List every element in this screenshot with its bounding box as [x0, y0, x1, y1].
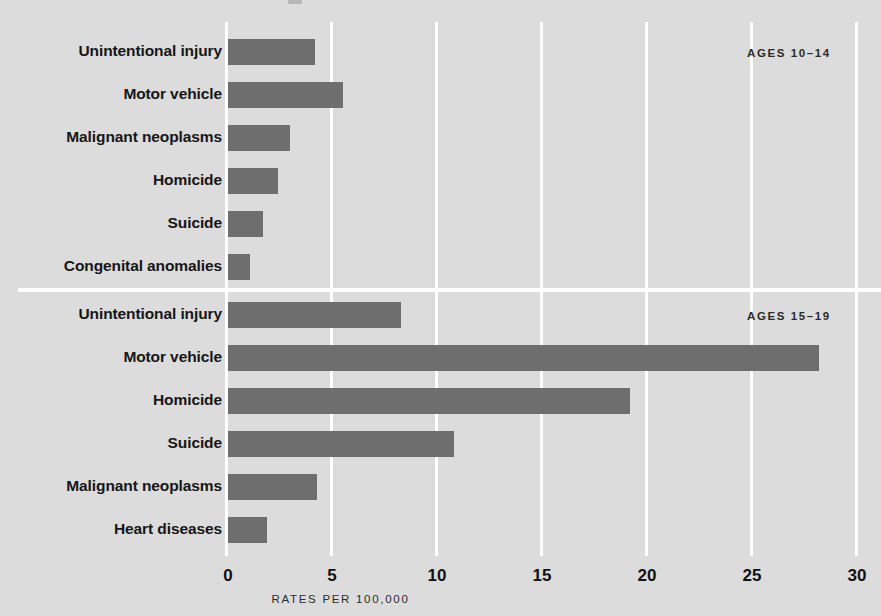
xtick-label: 0 [223, 566, 232, 586]
bar-row: Homicide [0, 168, 881, 194]
bar-row: Heart diseases [0, 517, 881, 543]
bar-row: Motor vehicle [0, 82, 881, 108]
horizontal-bar-chart: AGES 10–14 Unintentional injury Motor ve… [0, 0, 881, 616]
bar [228, 302, 401, 328]
xtick-label: 20 [638, 566, 657, 586]
bar-label: Congenital anomalies [64, 257, 222, 275]
bar-label: Motor vehicle [123, 85, 222, 103]
bar-row: Congenital anomalies [0, 254, 881, 280]
bar-row: Homicide [0, 388, 881, 414]
x-axis-title: RATES PER 100,000 [0, 593, 881, 605]
bar [228, 517, 267, 543]
bar-label: Unintentional injury [78, 42, 222, 60]
bar [228, 254, 250, 280]
bar-label: Homicide [153, 391, 222, 409]
bar-label: Malignant neoplasms [66, 477, 222, 495]
xtick-label: 10 [428, 566, 447, 586]
bar [228, 388, 630, 414]
bar-label: Malignant neoplasms [66, 128, 222, 146]
xtick-label: 5 [327, 566, 336, 586]
bar [228, 431, 454, 457]
bar-row: Malignant neoplasms [0, 474, 881, 500]
bar-row: Malignant neoplasms [0, 125, 881, 151]
bar-label: Motor vehicle [123, 348, 222, 366]
bar [228, 82, 343, 108]
bar-label: Suicide [168, 214, 222, 232]
bar-row: Unintentional injury [0, 39, 881, 65]
bar-row: Motor vehicle [0, 345, 881, 371]
bar [228, 345, 819, 371]
xtick-label: 30 [848, 566, 867, 586]
bar-label: Heart diseases [114, 520, 222, 538]
xtick-label: 25 [743, 566, 762, 586]
bar [228, 125, 290, 151]
panel-divider [18, 288, 881, 292]
bar [228, 211, 263, 237]
bar-row: Unintentional injury [0, 302, 881, 328]
xtick-label: 15 [533, 566, 552, 586]
x-axis-title-text: RATES PER 100,000 [272, 593, 410, 605]
bar-row: Suicide [0, 211, 881, 237]
bar-label: Unintentional injury [78, 305, 222, 323]
bar-label: Suicide [168, 434, 222, 452]
bar-label: Homicide [153, 171, 222, 189]
bar [228, 39, 315, 65]
bar [228, 474, 317, 500]
bar-row: Suicide [0, 431, 881, 457]
bar [228, 168, 278, 194]
